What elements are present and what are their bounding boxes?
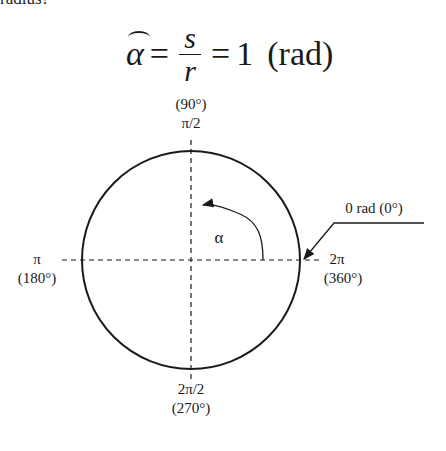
label-top-radians: π/2 (166, 115, 216, 131)
label-alpha: α (209, 230, 229, 246)
unit-circle-diagram (0, 0, 446, 451)
label-left-degrees: (180°) (8, 270, 66, 286)
label-top-degrees: (90°) (166, 96, 216, 112)
label-left-radians: π (22, 251, 52, 267)
label-bottom-radians: 2π/2 (161, 381, 221, 397)
label-bottom-degrees: (270°) (161, 400, 221, 416)
label-zero-rad: 0 rad (0°) (324, 200, 424, 216)
label-right-radians: 2π (322, 251, 352, 267)
label-right-degrees: (360°) (314, 270, 372, 286)
